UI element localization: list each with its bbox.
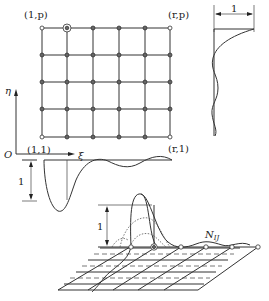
eta-arrow-icon [14,89,18,96]
surface-grid [58,247,258,290]
control-grid [42,28,170,137]
function-label: NIJ [204,229,221,242]
basis-function-diagram: (1,p) (r,p) (1,1) (r,1) η O ξ 1 1 [0,0,269,301]
label-top-right: (r,p) [168,9,189,20]
label-bottom-left: (1,1) [27,144,51,155]
axis-label-xi: ξ [78,150,84,161]
surface-curves [92,194,260,292]
label-top-left: (1,p) [24,9,48,20]
axis-origin-label: O [4,149,12,160]
bottom-profile [22,156,172,211]
axis-label-eta: η [5,85,11,96]
xi-arrow-icon [68,152,75,156]
right-profile-scale-label: 1 [231,3,237,14]
surface-height-label: 1 [97,221,103,232]
right-profile [212,5,254,136]
label-bottom-right: (r,1) [168,143,189,154]
bottom-profile-scale-label: 1 [18,176,24,187]
